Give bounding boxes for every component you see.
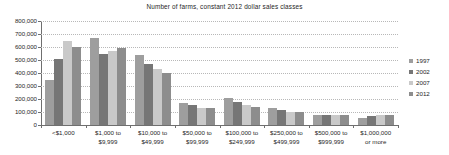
bar-2007[interactable] — [286, 112, 295, 125]
bar-2012[interactable] — [117, 48, 126, 125]
legend-label: 2012 — [416, 90, 430, 97]
bar-group — [175, 21, 220, 125]
bar-2007[interactable] — [331, 115, 340, 125]
y-axis-tick-label: 700,000 — [15, 31, 37, 37]
bar-2002[interactable] — [144, 64, 153, 125]
bar-1997[interactable] — [313, 115, 322, 125]
bar-2012[interactable] — [251, 107, 260, 125]
bar-group — [86, 21, 131, 125]
y-axis-tick-label: 500,000 — [15, 57, 37, 63]
bar-chart: Number of farms, constant 2012 dollar sa… — [0, 0, 449, 155]
legend-item-2012[interactable]: 2012 — [409, 88, 430, 99]
bar-2007[interactable] — [153, 69, 162, 125]
bar-group — [41, 21, 86, 125]
legend: 1997200220072012 — [409, 55, 430, 99]
bar-2012[interactable] — [340, 115, 349, 125]
bar-2007[interactable] — [63, 41, 72, 125]
bar-1997[interactable] — [135, 55, 144, 125]
legend-swatch-icon — [409, 92, 413, 96]
bar-group — [264, 21, 309, 125]
bar-2002[interactable] — [54, 59, 63, 125]
bar-1997[interactable] — [224, 98, 233, 125]
legend-swatch-icon — [409, 70, 413, 74]
y-axis-tick-label: 300,000 — [15, 83, 37, 89]
bar-2012[interactable] — [162, 73, 171, 125]
y-axis-tick-label: 100,000 — [15, 109, 37, 115]
bar-2002[interactable] — [188, 105, 197, 125]
bar-1997[interactable] — [268, 108, 277, 125]
bar-2012[interactable] — [72, 47, 81, 125]
bar-2007[interactable] — [108, 51, 117, 125]
bar-2002[interactable] — [99, 54, 108, 125]
bar-2007[interactable] — [376, 115, 385, 125]
bar-2002[interactable] — [322, 115, 331, 125]
bar-2012[interactable] — [385, 115, 394, 125]
bar-group — [130, 21, 175, 125]
y-axis-tick-label: 800,000 — [15, 18, 37, 24]
bar-group — [309, 21, 354, 125]
bar-2007[interactable] — [197, 108, 206, 125]
y-axis-tick-label: 200,000 — [15, 96, 37, 102]
bar-group — [220, 21, 265, 125]
bar-1997[interactable] — [179, 103, 188, 125]
legend-item-1997[interactable]: 1997 — [409, 55, 430, 66]
bar-group — [353, 21, 398, 125]
bar-1997[interactable] — [45, 80, 54, 125]
legend-label: 1997 — [416, 57, 430, 64]
legend-item-2007[interactable]: 2007 — [409, 77, 430, 88]
legend-label: 2007 — [416, 79, 430, 86]
legend-swatch-icon — [409, 81, 413, 85]
x-axis-tick-label: $1,000,000 or more — [347, 128, 404, 146]
bar-2002[interactable] — [367, 116, 376, 125]
legend-item-2002[interactable]: 2002 — [409, 66, 430, 77]
bar-1997[interactable] — [358, 118, 367, 125]
bar-2002[interactable] — [277, 110, 286, 125]
legend-label: 2002 — [416, 68, 430, 75]
y-axis-tick-label: 600,000 — [15, 44, 37, 50]
bar-2012[interactable] — [206, 108, 215, 125]
plot-area — [41, 21, 398, 125]
legend-swatch-icon — [409, 59, 413, 63]
bar-1997[interactable] — [90, 38, 99, 125]
bar-2012[interactable] — [295, 112, 304, 125]
x-axis-tick — [398, 125, 399, 128]
chart-title: Number of farms, constant 2012 dollar sa… — [0, 3, 449, 10]
y-axis-tick-label: 400,000 — [15, 70, 37, 76]
bar-2002[interactable] — [233, 102, 242, 125]
bar-2007[interactable] — [242, 105, 251, 125]
